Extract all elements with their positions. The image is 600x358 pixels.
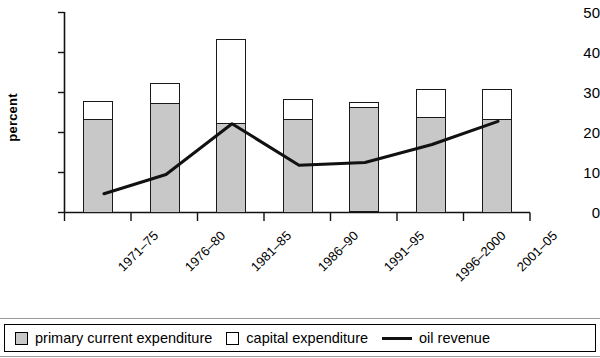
legend-label-oil-revenue: oil revenue (419, 330, 490, 346)
white-square-swatch-icon (226, 332, 239, 345)
legend-bottom-rule (0, 356, 600, 357)
legend-item-oil-revenue: oil revenue (382, 330, 490, 346)
chart-legend: primary current expenditure capital expe… (4, 324, 596, 352)
oil-revenue-line (0, 0, 600, 300)
black-line-swatch-icon (382, 337, 412, 340)
gray-square-swatch-icon (15, 332, 28, 345)
legend-label-primary-current-expenditure: primary current expenditure (35, 330, 212, 346)
chart-figure: percent 50 40 30 20 10 0 (0, 0, 600, 358)
legend-item-primary-current-expenditure: primary current expenditure (15, 330, 212, 346)
plot-area: percent 50 40 30 20 10 0 (0, 0, 600, 300)
legend-label-capital-expenditure: capital expenditure (246, 330, 368, 346)
legend-item-capital-expenditure: capital expenditure (226, 330, 368, 346)
legend-top-rule (0, 318, 600, 319)
